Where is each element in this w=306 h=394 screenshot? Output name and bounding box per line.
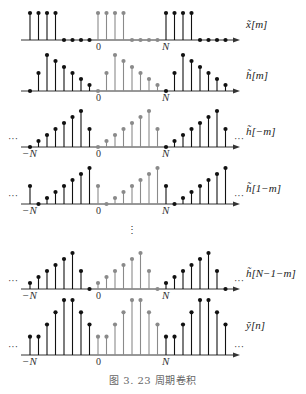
stem-marker	[138, 178, 142, 182]
axis-arrow-icon	[233, 287, 240, 292]
stem-marker	[28, 11, 32, 15]
stem-marker	[138, 251, 142, 255]
stem-marker	[223, 287, 227, 291]
stem-marker	[113, 133, 117, 137]
tick-label: N	[161, 204, 170, 216]
stem-marker	[87, 38, 91, 42]
stem-marker	[215, 310, 219, 314]
stem-marker	[121, 263, 125, 267]
stem-marker	[172, 71, 176, 75]
stem-marker	[113, 53, 117, 57]
stem-marker	[181, 322, 185, 326]
stem-marker	[62, 257, 66, 261]
tick-label: 0	[96, 205, 101, 216]
left-ellipsis: ···	[8, 133, 18, 144]
right-ellipsis: ···	[234, 133, 244, 144]
stem-marker	[172, 202, 176, 206]
stem-marker	[206, 71, 210, 75]
left-ellipsis: ···	[8, 275, 18, 286]
stem-marker	[62, 38, 66, 42]
axis-arrow-icon	[233, 202, 240, 207]
stem-marker	[96, 281, 100, 285]
stem-marker	[36, 71, 40, 75]
stem-marker	[104, 275, 108, 279]
tick-label: 0	[96, 148, 101, 159]
stem-marker	[138, 298, 142, 302]
stem-marker	[104, 202, 108, 206]
stem-marker	[189, 11, 193, 15]
stem-marker	[45, 269, 49, 273]
stem-marker	[70, 71, 74, 75]
stem-marker	[130, 121, 134, 125]
left-ellipsis: ···	[8, 190, 18, 201]
tick-label: 0	[96, 92, 101, 103]
stem-marker	[96, 11, 100, 15]
tick-label: N	[161, 40, 170, 52]
stem-marker	[164, 11, 168, 15]
stem-marker	[28, 335, 32, 339]
stem-marker	[45, 53, 49, 57]
tick-label: N	[161, 289, 170, 301]
stem-marker	[147, 269, 151, 273]
stem-marker	[45, 11, 49, 15]
stem-marker	[215, 77, 219, 81]
right-ellipsis: ···	[234, 275, 244, 286]
stem-marker	[53, 127, 57, 131]
stem-marker	[53, 263, 57, 267]
stem-marker	[215, 38, 219, 42]
stem-marker	[45, 322, 49, 326]
stem-marker	[206, 115, 210, 119]
stem-marker	[181, 133, 185, 137]
stem-marker	[104, 71, 108, 75]
tick-label: −N	[22, 289, 37, 301]
stem-marker	[198, 38, 202, 42]
left-ellipsis: ···	[8, 341, 18, 352]
stem-marker	[155, 127, 159, 131]
stem-marker	[121, 127, 125, 131]
stem-marker	[28, 184, 32, 188]
stem-marker	[138, 71, 142, 75]
tick-label: −N	[22, 355, 37, 367]
stem-marker	[104, 11, 108, 15]
stem-marker	[113, 322, 117, 326]
stem-marker	[130, 38, 134, 42]
stem-marker	[164, 335, 168, 339]
stem-marker	[155, 83, 159, 87]
stem-marker	[147, 77, 151, 81]
stem-marker	[96, 184, 100, 188]
tick-label: N	[161, 147, 170, 159]
stem-marker	[138, 115, 142, 119]
stem-marker	[113, 196, 117, 200]
stem-marker	[36, 139, 40, 143]
stem-marker	[172, 139, 176, 143]
stem-marker	[104, 335, 108, 339]
stem-marker	[121, 310, 125, 314]
stem-marker	[215, 109, 219, 113]
stem-marker	[79, 38, 83, 42]
axis-arrow-icon	[233, 38, 240, 43]
signal-label: x̃[m]	[245, 18, 267, 30]
stem-marker	[138, 38, 142, 42]
stem-marker	[130, 184, 134, 188]
stem-marker	[70, 115, 74, 119]
stem-marker	[181, 53, 185, 57]
tick-label: 0	[96, 356, 101, 367]
stem-marker	[70, 298, 74, 302]
stem-marker	[87, 322, 91, 326]
stem-marker	[155, 166, 159, 170]
stem-marker	[62, 184, 66, 188]
stem-marker	[79, 77, 83, 81]
stem-marker	[155, 38, 159, 42]
signal-label: h̃[−m]	[246, 125, 275, 137]
stem-marker	[36, 202, 40, 206]
stem-marker	[53, 310, 57, 314]
stem-marker	[87, 127, 91, 131]
stem-marker	[198, 298, 202, 302]
stem-marker	[198, 184, 202, 188]
stem-marker	[223, 322, 227, 326]
tick-label: 0	[96, 290, 101, 301]
stem-marker	[147, 310, 151, 314]
stem-marker	[164, 184, 168, 188]
stem-marker	[121, 11, 125, 15]
tick-label: N	[161, 355, 170, 367]
